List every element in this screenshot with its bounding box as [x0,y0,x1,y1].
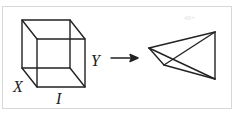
cube-edge-x [22,68,37,87]
watermark-text: 40+ [184,15,195,22]
cube-figure [22,20,85,87]
diagram-canvas [0,0,238,117]
label-i: I [56,91,61,107]
tetra-edge [149,48,164,65]
tetra-edge [149,32,215,48]
cube-front-face [37,39,85,87]
cube-back-face [22,20,70,68]
tetra-edge [164,32,215,65]
label-x: X [13,79,23,95]
label-y: Y [91,53,100,69]
tetrahedron-figure [149,32,215,79]
cube-edge [22,20,37,39]
cube-edge [70,20,85,39]
arrow-icon [111,55,138,62]
cube-edge [70,68,85,87]
